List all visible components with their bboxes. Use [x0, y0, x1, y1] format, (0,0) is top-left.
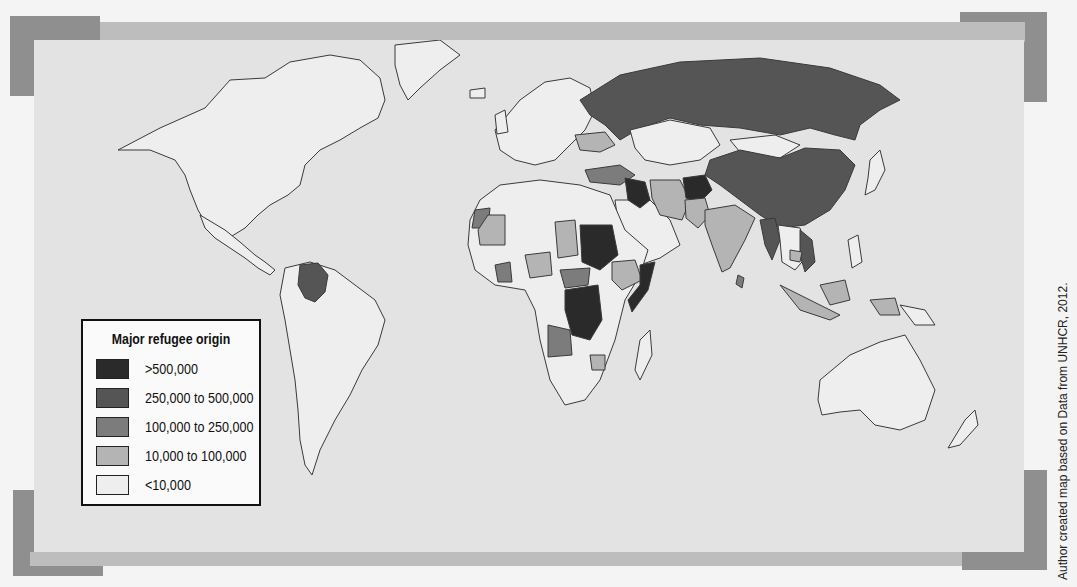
legend-item: 100,000 to 250,000 — [96, 416, 266, 438]
source-credit-text: Author created map based on Data from UN… — [1056, 283, 1070, 580]
legend-label: >500,000 — [145, 361, 198, 377]
legend-label: 10,000 to 100,000 — [145, 448, 247, 464]
legend-item: >500,000 — [96, 358, 204, 380]
country-japan — [865, 150, 885, 195]
region-central-asia — [630, 120, 720, 165]
legend-swatch — [96, 446, 129, 466]
country-cambodia — [790, 250, 802, 262]
legend-label: 250,000 to 500,000 — [145, 390, 254, 406]
country-philippines — [848, 235, 862, 268]
frame-top-band — [100, 22, 1025, 42]
legend-label: <10,000 — [145, 477, 191, 493]
region-north-america — [118, 55, 385, 236]
legend-label: 100,000 to 250,000 — [145, 419, 254, 435]
region-greenland — [395, 40, 460, 100]
country-cote-divoire — [495, 262, 512, 282]
source-credit: Author created map based on Data from UN… — [1056, 250, 1076, 580]
country-uk — [495, 110, 508, 134]
map-legend: Major refugee origin >500,000 250,000 to… — [81, 319, 261, 506]
legend-item: 10,000 to 100,000 — [96, 445, 258, 467]
country-car — [560, 268, 590, 288]
country-chad — [555, 220, 578, 258]
country-australia — [818, 335, 935, 430]
legend-item: <10,000 — [96, 474, 196, 496]
country-indonesia — [780, 280, 900, 320]
country-sri-lanka — [736, 275, 744, 288]
region-europe — [495, 78, 595, 165]
country-iceland — [470, 88, 485, 98]
legend-swatch — [96, 475, 129, 495]
country-afghanistan — [683, 175, 712, 202]
country-ukraine — [575, 132, 615, 152]
country-russia — [580, 58, 900, 140]
legend-item: 250,000 to 500,000 — [96, 387, 266, 409]
frame-bottom-band — [30, 552, 962, 566]
country-india — [705, 205, 755, 272]
country-nigeria — [525, 252, 552, 278]
country-new-zealand — [948, 410, 978, 448]
country-angola — [548, 325, 572, 357]
country-madagascar — [635, 330, 652, 380]
legend-swatch — [96, 359, 129, 379]
country-zimbabwe — [590, 355, 605, 370]
country-vietnam — [800, 230, 815, 272]
region-south-america — [280, 262, 385, 475]
country-papua-new-guinea — [900, 305, 935, 325]
legend-title: Major refugee origin — [94, 331, 249, 347]
legend-swatch — [96, 417, 129, 437]
legend-swatch — [96, 388, 129, 408]
